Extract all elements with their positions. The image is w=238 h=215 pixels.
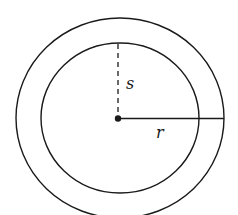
- label-s: s: [126, 74, 134, 93]
- label-r: r: [156, 123, 165, 142]
- center-point: [115, 115, 121, 121]
- concentric-circles-diagram: s r: [0, 0, 238, 215]
